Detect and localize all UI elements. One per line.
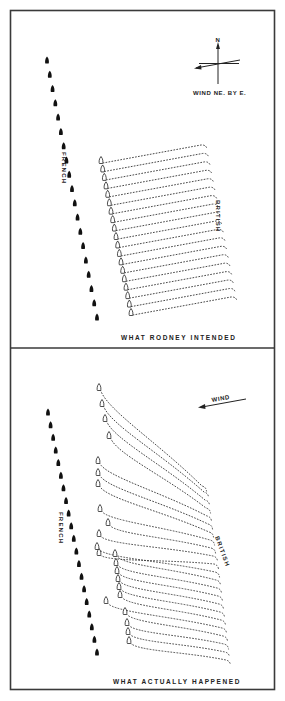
actual-track xyxy=(120,581,224,609)
intended-track xyxy=(111,187,215,205)
french-ship-icon xyxy=(56,114,60,121)
british-ships-bottom xyxy=(95,384,131,644)
british-ship-icon xyxy=(117,249,121,256)
french-ship-icon xyxy=(72,535,76,542)
british-ship-icon xyxy=(96,457,100,464)
actual-track xyxy=(104,406,209,497)
british-line-top xyxy=(99,157,133,316)
british-ship-icon xyxy=(119,258,123,265)
intended-track xyxy=(106,162,210,180)
british-ship-icon xyxy=(125,619,129,626)
french-ship-icon xyxy=(51,434,55,441)
british-ship-icon xyxy=(106,190,110,197)
intended-track xyxy=(128,272,232,290)
british-ship-icon xyxy=(107,199,111,206)
wind-direction-label: WIND NE. BY E. xyxy=(193,90,246,96)
british-ship-icon xyxy=(127,300,131,307)
intended-track xyxy=(126,263,230,281)
french-label-top: FRENCH xyxy=(61,152,67,184)
british-ship-icon xyxy=(127,637,131,644)
french-ship-icon xyxy=(77,560,81,567)
french-ship-icon xyxy=(59,128,63,135)
intended-track xyxy=(120,229,224,247)
french-label-bottom: FRENCH xyxy=(58,512,64,544)
french-ship-icon xyxy=(51,85,55,92)
british-ship-icon xyxy=(98,505,102,512)
british-ship-icon xyxy=(104,182,108,189)
wind-label-bottom: WIND xyxy=(211,394,230,403)
british-ship-icon xyxy=(114,233,118,240)
french-ship-icon xyxy=(73,199,77,206)
french-ship-icon xyxy=(95,649,99,656)
french-ship-icon xyxy=(49,421,53,428)
french-ship-icon xyxy=(80,573,84,580)
french-ship-icon xyxy=(92,299,96,306)
compass-icon: N xyxy=(194,37,240,84)
intended-track xyxy=(125,255,229,273)
actual-track xyxy=(131,643,231,665)
british-label-top: BRITISH xyxy=(215,200,221,232)
british-ship-icon xyxy=(95,543,99,550)
british-ship-icon xyxy=(102,173,106,180)
british-ship-icon xyxy=(124,283,128,290)
british-ship-icon xyxy=(126,292,130,299)
british-tracks-actual xyxy=(99,390,231,665)
british-ship-icon xyxy=(129,309,133,316)
intended-track xyxy=(130,280,234,298)
french-ship-icon xyxy=(95,314,99,321)
actual-track xyxy=(100,486,214,537)
british-ship-icon xyxy=(126,628,130,635)
british-ship-icon xyxy=(96,469,100,476)
actual-track xyxy=(117,556,221,585)
caption-what-rodney-intended: WHAT RODNEY INTENDED xyxy=(121,334,237,341)
british-ship-icon xyxy=(115,567,119,574)
british-ship-icon xyxy=(104,597,108,604)
actual-track xyxy=(122,597,226,625)
actual-track xyxy=(110,525,216,553)
british-ship-icon xyxy=(121,266,125,273)
actual-track xyxy=(102,511,215,545)
french-ship-icon xyxy=(59,472,63,479)
french-ship-icon xyxy=(87,611,91,618)
battle-diagram: N WIND NE. BY E. FRENCH BRITISH WHAT ROD… xyxy=(0,0,285,701)
british-ship-icon xyxy=(118,591,122,598)
actual-track xyxy=(101,555,219,569)
british-ship-icon xyxy=(109,207,113,214)
intended-track xyxy=(123,246,227,264)
british-ship-icon xyxy=(114,559,118,566)
french-ship-icon xyxy=(87,271,91,278)
intended-track xyxy=(115,204,219,222)
french-ship-icon xyxy=(81,242,85,249)
british-ship-icon xyxy=(111,216,115,223)
figure-frame xyxy=(11,11,275,690)
british-ship-icon xyxy=(106,519,110,526)
french-ship-icon xyxy=(67,510,71,517)
british-label-bottom: BRITISH xyxy=(214,535,231,568)
french-ship-icon xyxy=(45,57,49,64)
french-ship-icon xyxy=(48,71,52,78)
french-ship-icon xyxy=(76,214,80,221)
british-ship-icon xyxy=(101,165,105,172)
north-label: N xyxy=(216,37,221,43)
french-ship-icon xyxy=(93,636,97,643)
intended-track xyxy=(121,238,225,256)
actual-track xyxy=(118,565,222,593)
panel-what-actually-happened: WIND FRENCH BRITISH WHAT ACTUALLY HAPPEN… xyxy=(46,384,246,686)
french-ship-icon xyxy=(90,623,94,630)
british-ship-icon xyxy=(103,415,107,422)
actual-track xyxy=(129,625,229,649)
french-ship-icon xyxy=(54,446,58,453)
british-ship-icon xyxy=(100,400,104,407)
french-ship-icon xyxy=(62,142,66,149)
french-ship-icon xyxy=(46,409,50,416)
french-ship-icon xyxy=(82,585,86,592)
french-ship-icon xyxy=(70,185,74,192)
intended-track xyxy=(105,153,209,171)
french-line-bottom xyxy=(46,409,99,656)
british-ship-icon xyxy=(112,224,116,231)
intended-track xyxy=(110,179,214,197)
british-ship-icon xyxy=(117,583,121,590)
british-ship-icon xyxy=(116,575,120,582)
british-ship-icon xyxy=(123,608,127,615)
actual-track xyxy=(130,634,230,657)
